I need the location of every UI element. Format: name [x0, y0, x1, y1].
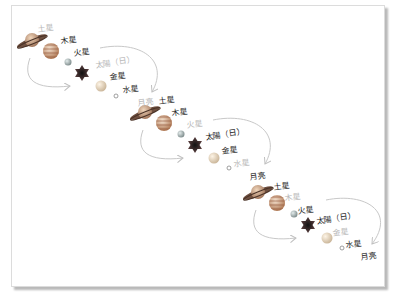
venus-icon — [96, 81, 107, 92]
mars-icon — [291, 211, 298, 218]
venus-icon — [209, 153, 220, 164]
jupiter-icon — [156, 115, 172, 131]
mercury-icon — [114, 94, 118, 98]
jupiter-icon — [43, 43, 59, 59]
mercury-icon — [340, 246, 344, 250]
saturn-icon — [16, 32, 48, 50]
mars-icon — [65, 59, 72, 66]
arrow-left — [141, 130, 183, 159]
arrow-left — [254, 210, 296, 239]
sun-icon — [188, 137, 202, 153]
saturn-icon — [242, 184, 274, 202]
venus-icon — [322, 233, 333, 244]
jupiter-icon — [269, 195, 285, 211]
mercury-icon — [227, 166, 231, 170]
sun-icon — [301, 217, 315, 233]
sun-icon — [75, 65, 89, 81]
arrow-left — [28, 58, 70, 87]
diagram-canvas — [0, 0, 393, 298]
mars-icon — [178, 131, 185, 138]
arrow-right — [213, 118, 270, 164]
